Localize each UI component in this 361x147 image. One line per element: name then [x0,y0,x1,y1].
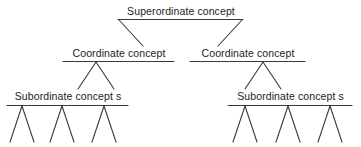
leaf-fork-right-2 [276,106,300,142]
node-label-superordinate: Superordinate concept [118,5,244,17]
node-label-coordinate-right: Coordinate concept [190,47,306,59]
node-label-subordinate-left: Subordinate concept s [7,90,129,102]
node-label-coordinate-left: Coordinate concept [63,47,175,59]
connector-superordinate-to-coordinate-right [218,20,242,46]
connector-coordinate-right-fork-left [245,62,263,89]
leaf-fork-left-1 [10,106,34,142]
diagram-connector-lines [0,0,361,147]
connector-coordinate-left-fork-right [96,62,114,89]
node-label-subordinate-right: Subordinate concept s [228,90,353,102]
concept-hierarchy-diagram: Superordinate concept Coordinate concept… [0,0,361,147]
leaf-fork-right-3 [318,106,342,142]
leaf-fork-left-3 [92,106,116,142]
leaf-fork-right-1 [233,106,257,142]
leaf-fork-left-2 [50,106,74,142]
connector-coordinate-right-fork-right [263,62,281,89]
connector-superordinate-to-coordinate-left [119,20,143,46]
connector-coordinate-left-fork-left [78,62,96,89]
